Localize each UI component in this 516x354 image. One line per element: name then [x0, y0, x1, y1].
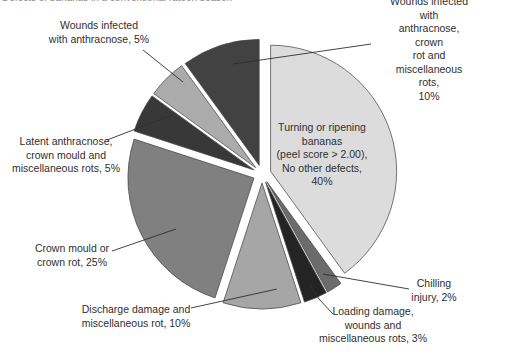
label-discharge-damage: Discharge damage and miscellaneous rot, …	[82, 303, 191, 330]
leader-line-wounds-anthracnose	[143, 50, 183, 82]
label-wounds-anthracnose-crown-rot: Wounds infected with anthracnose, crown …	[386, 0, 473, 103]
label-turning-ripening: Turning or ripening bananas (peel score …	[277, 121, 368, 189]
exploded-pie-figure: Defects of bananas in a conventional rat…	[0, 0, 516, 354]
label-loading-damage: Loading damage, wounds and miscellaneous…	[319, 305, 427, 346]
label-crown-mould: Crown mould or crown rot, 25%	[35, 242, 109, 269]
label-wounds-anthracnose: Wounds infected with anthracnose, 5%	[49, 19, 149, 46]
label-latent-anthracnose: Latent anthracnose, crown mould and misc…	[12, 135, 120, 176]
label-chilling-injury: Chilling injury, 2%	[411, 277, 456, 304]
